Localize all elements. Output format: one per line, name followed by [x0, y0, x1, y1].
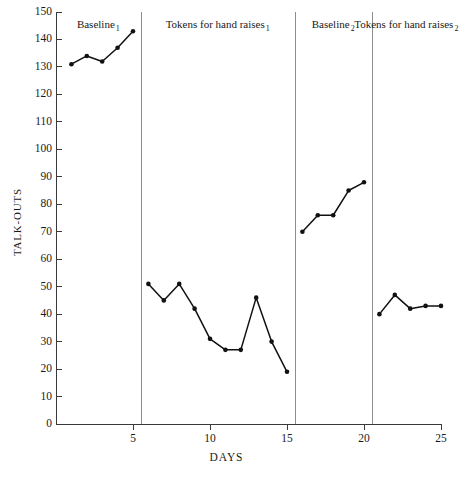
data-point	[346, 188, 351, 193]
data-point	[192, 306, 197, 311]
y-tick-label-130: 130	[16, 61, 52, 73]
phase-divider-3	[372, 12, 373, 424]
phase-label-text: Baseline	[77, 18, 115, 30]
y-tick-0	[56, 424, 62, 425]
y-tick-label-150: 150	[16, 6, 52, 18]
data-point	[362, 180, 367, 185]
x-tick-label-10: 10	[197, 432, 223, 444]
data-point	[208, 337, 213, 342]
x-tick-label-25: 25	[428, 432, 454, 444]
x-tick-15	[287, 424, 288, 430]
y-tick-70	[56, 231, 62, 232]
y-tick-label-40: 40	[16, 308, 52, 320]
x-tick-25	[441, 424, 442, 430]
y-tick-label-120: 120	[16, 88, 52, 100]
x-tick-label-15: 15	[274, 432, 300, 444]
y-tick-30	[56, 341, 62, 342]
data-point	[223, 348, 228, 353]
y-tick-90	[56, 176, 62, 177]
data-point	[162, 298, 167, 303]
series-line	[148, 284, 287, 372]
x-axis-line	[56, 424, 441, 425]
phase-divider-1	[141, 12, 142, 424]
series-1	[69, 29, 135, 67]
y-tick-label-50: 50	[16, 281, 52, 293]
data-point	[177, 282, 182, 287]
y-tick-label-20: 20	[16, 363, 52, 375]
x-tick-10	[210, 424, 211, 430]
series-3	[300, 180, 366, 234]
y-tick-label-100: 100	[16, 143, 52, 155]
y-tick-label-30: 30	[16, 336, 52, 348]
data-point	[269, 339, 274, 344]
data-point	[316, 213, 321, 218]
y-tick-label-140: 140	[16, 33, 52, 45]
data-point	[377, 312, 382, 317]
x-axis-title: DAYS	[0, 451, 453, 463]
series-line	[302, 182, 364, 231]
phase-label-subscript: 2	[453, 24, 458, 33]
y-tick-100	[56, 149, 62, 150]
data-point	[408, 306, 413, 311]
y-tick-120	[56, 94, 62, 95]
series-line	[71, 31, 133, 64]
series-2	[146, 282, 289, 374]
x-tick-label-20: 20	[351, 432, 377, 444]
y-tick-20	[56, 369, 62, 370]
data-point	[285, 370, 290, 375]
data-point	[439, 304, 444, 309]
y-axis-title: TALK-OUTS	[11, 167, 23, 277]
y-tick-80	[56, 204, 62, 205]
data-point	[115, 45, 120, 50]
phase-label-text: Tokens for hand raises	[354, 18, 453, 30]
data-point	[331, 213, 336, 218]
y-tick-150	[56, 12, 62, 13]
phase-divider-2	[295, 12, 296, 424]
y-tick-110	[56, 121, 62, 122]
data-point	[254, 295, 259, 300]
y-tick-label-0: 0	[16, 418, 52, 430]
y-tick-label-10: 10	[16, 391, 52, 403]
y-tick-60	[56, 259, 62, 260]
y-tick-10	[56, 396, 62, 397]
phase-label-4: Tokens for hand raises2	[316, 18, 463, 32]
y-tick-140	[56, 39, 62, 40]
data-point	[85, 54, 90, 59]
y-axis-line	[56, 12, 57, 425]
data-point	[300, 229, 305, 234]
y-tick-label-110: 110	[16, 116, 52, 128]
x-tick-label-5: 5	[120, 432, 146, 444]
phase-label-subscript: 1	[115, 24, 120, 33]
y-tick-130	[56, 66, 62, 67]
data-point	[100, 59, 105, 64]
series-line	[379, 295, 441, 314]
x-tick-5	[133, 424, 134, 430]
y-tick-50	[56, 286, 62, 287]
x-tick-20	[364, 424, 365, 430]
data-point	[69, 62, 74, 67]
data-point	[146, 282, 151, 287]
data-point	[393, 293, 398, 298]
series-4	[377, 293, 443, 317]
data-point	[423, 304, 428, 309]
y-tick-40	[56, 314, 62, 315]
data-point	[239, 348, 244, 353]
